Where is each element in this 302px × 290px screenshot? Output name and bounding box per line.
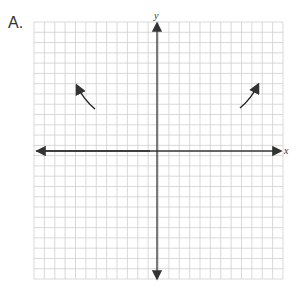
coordinate-graph: x y bbox=[0, 0, 302, 290]
y-axis-label: y bbox=[153, 10, 159, 21]
x-axis-label: x bbox=[283, 145, 289, 156]
